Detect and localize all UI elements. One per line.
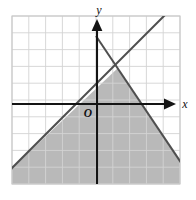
origin-label: O (84, 107, 92, 119)
coordinate-plane-svg: x y O (0, 0, 196, 200)
x-axis-label: x (181, 97, 188, 111)
y-axis-label: y (95, 3, 102, 17)
graph-figure: x y O (0, 0, 196, 200)
